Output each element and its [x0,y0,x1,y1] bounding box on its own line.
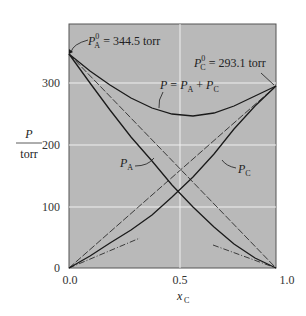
svg-text:x: x [176,289,183,303]
svg-text:C: C [184,296,189,305]
y-tick-0: 0 [54,261,60,275]
svg-text:P0C= 293.1 torr: P0C= 293.1 torr [193,54,266,72]
x-tick-labels: 0.0 0.5 1.0 [63,273,295,287]
y-axis-title: P torr [16,127,42,161]
x-axis-title: x C [176,289,189,305]
y-tick-200: 200 [42,138,60,152]
y-tick-labels: 0 100 200 300 [42,76,60,275]
y-tick-300: 300 [42,76,60,90]
svg-text:P0A= 344.5 torr: P0A= 344.5 torr [87,32,160,50]
x-tick-1: 1.0 [280,273,295,287]
vapor-pressure-chart: 0 100 200 300 0.0 0.5 1.0 P torr x C P0A… [0,0,306,316]
y-tick-100: 100 [42,200,60,214]
x-tick-0: 0.0 [63,273,78,287]
svg-text:torr: torr [20,147,37,161]
x-tick-0-5: 0.5 [173,273,188,287]
svg-text:P: P [24,127,33,141]
